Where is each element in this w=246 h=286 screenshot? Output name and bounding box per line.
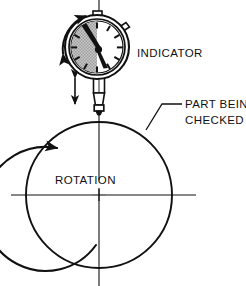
- contact-tip-collar: [94, 105, 104, 111]
- needle-hub: [95, 46, 102, 53]
- rotation-label: ROTATION: [55, 174, 116, 186]
- diagram-canvas: INDICATOR PART BEING CHECKED ROTATION: [0, 0, 246, 286]
- stem-taper: [94, 93, 105, 105]
- part-label-line2: CHECKED: [185, 114, 244, 126]
- technical-diagram: INDICATOR PART BEING CHECKED ROTATION: [0, 0, 246, 286]
- contact-point-icon: [96, 111, 102, 115]
- part-label-line1: PART BEING: [185, 98, 246, 110]
- indicator-label: INDICATOR: [137, 47, 203, 59]
